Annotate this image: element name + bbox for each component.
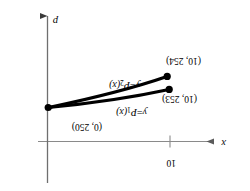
- point-label-lower: (10, 254): [166, 56, 201, 66]
- curve-label-p2-fn: P: [124, 80, 130, 91]
- x-axis: [38, 136, 214, 148]
- point-marker-origin: [45, 104, 52, 111]
- curve-label-p2-arg: (x): [109, 80, 120, 91]
- point-label-upper: (10, 253): [162, 94, 197, 104]
- curve-label-p2-y: y: [136, 80, 140, 91]
- curve-label-p1: y=P1(x): [116, 105, 147, 117]
- x-axis-label: x: [221, 138, 226, 149]
- x-axis-tick-label-10: 10: [167, 158, 177, 168]
- point-marker-upper: [166, 86, 173, 93]
- curve-label-p2-sub: 2: [120, 78, 124, 86]
- p-axis-label: p: [53, 16, 58, 27]
- curve-label-p1-y: y: [143, 107, 147, 118]
- curve-label-p1-arg: (x): [116, 107, 127, 118]
- curve-label-p2-eq: =: [130, 80, 136, 91]
- point-marker-lower: [164, 73, 171, 80]
- polynomial-interpolation-figure: (0, 250) (10, 253) (10, 254) y=P1(x) y=P…: [0, 0, 250, 191]
- curve-label-p2: y=P2(x): [109, 78, 140, 90]
- point-label-origin: (0, 250): [72, 122, 102, 132]
- curve-label-p1-eq: =: [137, 107, 143, 118]
- curve-label-p1-sub: 1: [127, 105, 131, 113]
- figure-canvas: [0, 0, 250, 191]
- curve-label-p1-fn: P: [131, 107, 137, 118]
